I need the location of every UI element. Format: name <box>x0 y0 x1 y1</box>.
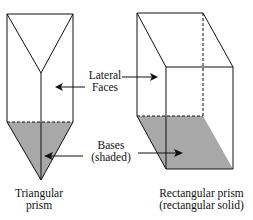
lateral-label-line1: Lateral <box>85 69 125 81</box>
rectangular-caption-line1: Rectangular prism <box>150 187 253 199</box>
rectangular-prism-caption: Rectangular prism (rectangular solid) <box>150 187 253 211</box>
triangular-caption-line2: prism <box>4 199 74 211</box>
rectangular-prism <box>137 13 233 169</box>
triangular-prism-caption: Triangular prism <box>4 187 74 211</box>
triangular-base-shaded <box>7 122 73 180</box>
lateral-label-line2: Faces <box>85 81 125 93</box>
bases-label: Bases (shaded) <box>82 139 140 163</box>
bases-label-line2: (shaded) <box>82 151 140 163</box>
lateral-faces-label: Lateral Faces <box>85 69 125 93</box>
rectangular-caption-line2: (rectangular solid) <box>150 199 253 211</box>
triangular-caption-line1: Triangular <box>4 187 74 199</box>
bases-label-line1: Bases <box>82 139 140 151</box>
triangular-prism <box>7 14 73 180</box>
